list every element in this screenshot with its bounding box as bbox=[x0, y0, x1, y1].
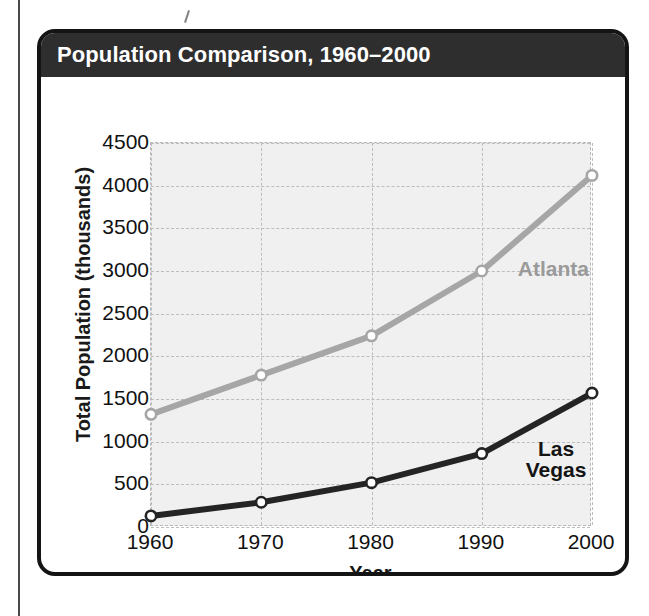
x-tick-label: 1990 bbox=[457, 530, 504, 554]
plot-area: AtlantaLas Vegas bbox=[150, 142, 591, 526]
x-tick-label: 2000 bbox=[568, 530, 615, 554]
page-gutter-rule bbox=[18, 0, 20, 616]
data-point-marker bbox=[587, 388, 597, 398]
x-tick-label: 1970 bbox=[237, 530, 284, 554]
x-axis-tick-labels: 19601970198019902000 bbox=[150, 530, 591, 560]
y-tick-label: 3500 bbox=[102, 215, 149, 239]
y-tick-label: 3000 bbox=[102, 258, 149, 282]
y-tick-label: 4500 bbox=[102, 130, 149, 154]
data-point-marker bbox=[587, 170, 597, 180]
series-label-atlanta: Atlanta bbox=[518, 258, 589, 279]
x-axis-title: Year bbox=[150, 562, 591, 576]
y-tick-label: 1500 bbox=[102, 386, 149, 410]
stray-pencil-mark bbox=[184, 10, 190, 23]
data-point-marker bbox=[366, 331, 376, 341]
data-point-marker bbox=[256, 497, 266, 507]
line-chart: Total Population (thousands) 05001000150… bbox=[41, 78, 625, 572]
gridline-vertical bbox=[592, 143, 593, 525]
data-point-marker bbox=[146, 511, 156, 521]
data-point-marker bbox=[477, 266, 487, 276]
figure-title: Population Comparison, 1960–2000 bbox=[40, 42, 431, 68]
y-tick-label: 4000 bbox=[102, 173, 149, 197]
y-tick-label: 500 bbox=[114, 471, 149, 495]
figure-card: Population Comparison, 1960–2000 Total P… bbox=[37, 29, 629, 576]
gridline-horizontal bbox=[151, 527, 590, 528]
data-point-marker bbox=[256, 370, 266, 380]
data-point-marker bbox=[146, 409, 156, 419]
data-point-marker bbox=[477, 448, 487, 458]
series-label-las-vegas: Las Vegas bbox=[526, 438, 587, 481]
y-tick-label: 1000 bbox=[102, 429, 149, 453]
x-tick-label: 1980 bbox=[347, 530, 394, 554]
figure-header-bar: Population Comparison, 1960–2000 bbox=[40, 32, 629, 77]
y-tick-label: 2500 bbox=[102, 301, 149, 325]
y-axis-tick-labels: 050010001500200025003000350040004500 bbox=[87, 142, 149, 526]
y-tick-label: 2000 bbox=[102, 343, 149, 367]
x-tick-label: 1960 bbox=[127, 530, 174, 554]
figure-body: Total Population (thousands) 05001000150… bbox=[41, 78, 625, 572]
plot-inner: AtlantaLas Vegas bbox=[151, 143, 590, 525]
series-line-atlanta bbox=[151, 175, 592, 414]
data-point-marker bbox=[366, 477, 376, 487]
